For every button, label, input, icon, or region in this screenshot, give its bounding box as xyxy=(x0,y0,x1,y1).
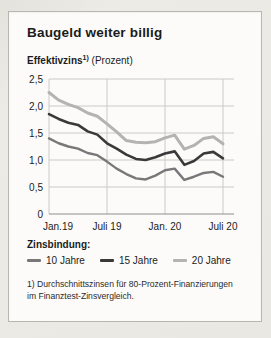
line-swatch-icon xyxy=(100,259,114,262)
legend-item-20-jahre: 20 Jahre xyxy=(173,255,231,266)
svg-text:0: 0 xyxy=(37,209,43,220)
svg-text:1,5: 1,5 xyxy=(29,128,43,139)
svg-text:1,0: 1,0 xyxy=(29,155,43,166)
legend-row: 10 Jahre 15 Jahre 20 Jahre xyxy=(27,255,243,266)
legend-label: 10 Jahre xyxy=(46,255,85,266)
page-background: Baugeld weiter billig Effektivzins1) (Pr… xyxy=(0,0,271,338)
svg-text:Jan.19: Jan.19 xyxy=(43,221,73,232)
footnote-line-1: 1) Durchschnittszinsen für 80-Prozent-Fi… xyxy=(27,279,233,289)
subtitle-unit: (Prozent) xyxy=(89,55,133,66)
chart-subtitle: Effektivzins1) (Prozent) xyxy=(9,55,261,66)
legend-title: Zinsbindung: xyxy=(27,239,243,250)
line-swatch-icon xyxy=(173,259,187,262)
svg-text:2,0: 2,0 xyxy=(29,101,43,112)
rates-line-chart: 2,52,01,51,00,50Jan.19Juli 19Jan. 20Juli… xyxy=(9,72,263,238)
chart-legend: Zinsbindung: 10 Jahre 15 Jahre 20 Jahre xyxy=(9,239,261,266)
footnote-line-2: im Finanztest-Zinsvergleich. xyxy=(27,291,134,301)
legend-item-15-jahre: 15 Jahre xyxy=(100,255,158,266)
svg-text:Juli 19: Juli 19 xyxy=(93,221,122,232)
svg-text:Jan. 20: Jan. 20 xyxy=(149,221,182,232)
line-swatch-icon xyxy=(27,259,41,262)
chart-footnote: 1) Durchschnittszinsen für 80-Prozent-Fi… xyxy=(9,278,261,303)
svg-text:0,5: 0,5 xyxy=(29,182,43,193)
legend-label: 15 Jahre xyxy=(119,255,158,266)
chart-title: Baugeld weiter billig xyxy=(9,12,261,40)
svg-text:Juli 20: Juli 20 xyxy=(209,221,238,232)
svg-text:2,5: 2,5 xyxy=(29,74,43,85)
legend-item-10-jahre: 10 Jahre xyxy=(27,255,85,266)
legend-label: 20 Jahre xyxy=(192,255,231,266)
chart-card: Baugeld weiter billig Effektivzins1) (Pr… xyxy=(8,11,262,322)
subtitle-label: Effektivzins xyxy=(27,55,83,66)
